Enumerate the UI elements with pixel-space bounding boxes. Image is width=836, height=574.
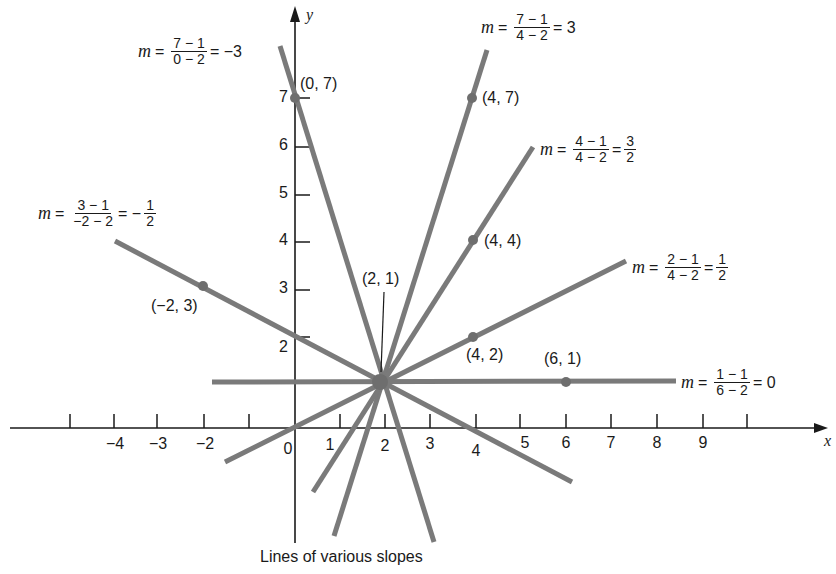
numerator: 1 − 1 xyxy=(714,367,750,383)
point-label: (4, 2) xyxy=(466,346,503,364)
result: = −3 xyxy=(210,43,242,61)
denominator: 2 xyxy=(624,150,636,165)
fraction: 7 − 1 0 − 2 xyxy=(171,36,207,67)
x-ticks xyxy=(70,414,747,428)
figure-caption: Lines of various slopes xyxy=(260,548,423,566)
point-neg2-3 xyxy=(198,281,208,291)
m-symbol: m xyxy=(481,17,494,38)
fraction: 1 − 1 6 − 2 xyxy=(714,367,750,398)
denominator: 4 − 2 xyxy=(665,268,701,283)
point-4-7 xyxy=(467,93,477,103)
result: = 3 xyxy=(553,19,576,37)
point-label: (4, 4) xyxy=(484,232,521,250)
m-symbol: m xyxy=(632,257,645,278)
x-tick-label: 7 xyxy=(607,434,616,452)
y-tick-label: 2 xyxy=(268,338,288,356)
slope-formula-1-2: m = 2 − 1 4 − 2 = 1 2 xyxy=(632,252,731,283)
denominator: −2 − 2 xyxy=(71,214,115,229)
numerator: 4 − 1 xyxy=(573,134,609,150)
equals-sign: = xyxy=(698,374,707,392)
x-tick-label: 1 xyxy=(326,436,335,454)
fraction: 7 − 1 4 − 2 xyxy=(514,12,550,43)
equals-sign: = xyxy=(155,43,164,61)
denominator: 2 xyxy=(716,268,728,283)
m-symbol: m xyxy=(138,41,151,62)
x-tick-label: 9 xyxy=(699,434,708,452)
denominator: 2 xyxy=(144,214,156,229)
point-label: (4, 7) xyxy=(482,89,519,107)
result: = 0 xyxy=(753,374,776,392)
equals-sign: = xyxy=(498,19,507,37)
x-tick-label: 0 xyxy=(284,440,293,458)
y-tick-label: 6 xyxy=(268,136,288,154)
denominator: 4 − 2 xyxy=(573,150,609,165)
result: = − xyxy=(118,205,141,223)
line-slope-0 xyxy=(212,381,676,382)
point-label: (−2, 3) xyxy=(151,297,198,315)
point-4-4 xyxy=(468,235,478,245)
coordinate-plane xyxy=(0,0,836,574)
x-tick-label: 5 xyxy=(521,434,530,452)
fraction: 3 − 1 −2 − 2 xyxy=(71,198,115,229)
result: = xyxy=(612,141,621,159)
y-tick-label: 3 xyxy=(268,279,288,297)
equals-sign: = xyxy=(55,205,64,223)
y-tick-label: 7 xyxy=(268,88,288,106)
denominator: 4 − 2 xyxy=(514,28,550,43)
equals-sign: = xyxy=(557,141,566,159)
y-axis-arrow-icon xyxy=(290,6,300,22)
slope-formula-3-2: m = 4 − 1 4 − 2 = 3 2 xyxy=(540,134,639,165)
x-tick-label: −3 xyxy=(149,435,167,453)
numerator: 3 xyxy=(624,134,636,150)
x-tick-label: −2 xyxy=(196,435,214,453)
denominator: 6 − 2 xyxy=(714,383,750,398)
equals-sign: = xyxy=(649,259,658,277)
point-label: (6, 1) xyxy=(544,350,581,368)
y-tick-label: 4 xyxy=(268,231,288,249)
point-6-1 xyxy=(561,377,571,387)
slope-formula-neg1-2: m = 3 − 1 −2 − 2 = − 1 2 xyxy=(38,198,159,229)
slope-lines xyxy=(115,46,676,542)
m-symbol: m xyxy=(540,139,553,160)
x-tick-label: 8 xyxy=(653,434,662,452)
m-symbol: m xyxy=(38,203,51,224)
x-tick-label: 4 xyxy=(472,442,481,460)
x-tick-label: −4 xyxy=(106,435,124,453)
result-fraction: 1 2 xyxy=(716,252,728,283)
numerator: 3 − 1 xyxy=(75,198,111,214)
x-axis-label: x xyxy=(824,432,831,450)
x-tick-label: 6 xyxy=(562,434,571,452)
slope-formula-3: m = 7 − 1 4 − 2 = 3 xyxy=(481,12,576,43)
fraction: 4 − 1 4 − 2 xyxy=(573,134,609,165)
line-slope-3-2 xyxy=(313,147,533,492)
y-tick-label: 5 xyxy=(268,184,288,202)
numerator: 1 xyxy=(716,252,728,268)
numerator: 2 − 1 xyxy=(665,252,701,268)
numerator: 7 − 1 xyxy=(171,36,207,52)
slope-formula-0: m = 1 − 1 6 − 2 = 0 xyxy=(681,367,776,398)
x-tick-label: 3 xyxy=(426,435,435,453)
pivot-leader-line xyxy=(381,292,384,372)
numerator: 7 − 1 xyxy=(514,12,550,28)
result-fraction: 3 2 xyxy=(624,134,636,165)
denominator: 0 − 2 xyxy=(171,52,207,67)
point-label: (0, 7) xyxy=(300,75,337,93)
slope-formula-neg3: m = 7 − 1 0 − 2 = −3 xyxy=(138,36,242,67)
m-symbol: m xyxy=(681,372,694,393)
point-0-7 xyxy=(290,93,300,103)
point-2-1 xyxy=(372,374,388,390)
result-fraction: 1 2 xyxy=(144,198,156,229)
numerator: 1 xyxy=(144,198,156,214)
y-axis-label: y xyxy=(306,6,313,24)
x-tick-label: 2 xyxy=(381,437,390,455)
point-4-2 xyxy=(468,332,478,342)
result: = xyxy=(704,259,713,277)
pivot-label: (2, 1) xyxy=(362,270,399,288)
fraction: 2 − 1 4 − 2 xyxy=(665,252,701,283)
